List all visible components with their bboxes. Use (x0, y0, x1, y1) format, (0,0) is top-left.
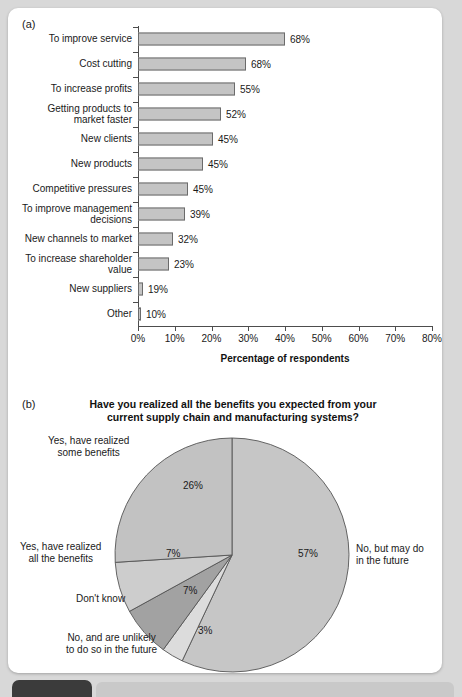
bar-row-label: To improve service (8, 33, 138, 44)
bar-row-label: Competitive pressures (8, 183, 138, 194)
bar-value-label: 45% (208, 158, 228, 169)
bar-fill (138, 107, 221, 120)
bar-track: 68% (138, 26, 442, 51)
pie-category-label-line: Yes, have realized (20, 541, 101, 553)
bar-chart-y-tick (133, 177, 138, 178)
bar-chart-rows: To improve service68%Cost cutting68%To i… (8, 26, 442, 326)
bar-chart-y-tick (133, 152, 138, 153)
bar-chart-x-tick-label: 0% (131, 333, 145, 344)
pie-category-label-line: in the future (356, 555, 424, 567)
pie-category-label-line: Don't know (76, 593, 125, 605)
bar-value-label: 32% (178, 233, 198, 244)
bar-chart-x-tick-label: 60% (348, 333, 368, 344)
pie-category-label: No, and are unlikelyto do so in the futu… (66, 632, 157, 656)
bar-track: 68% (138, 51, 442, 76)
bar-chart-x-tick-label: 30% (238, 333, 258, 344)
bar-chart-x-ticks: 0%10%20%30%40%50%60%70%80% (8, 326, 442, 352)
bar-chart-x-tick (395, 326, 396, 331)
pie-category-label-line: to do so in the future (66, 644, 157, 656)
bar-row-label: New channels to market (8, 233, 138, 244)
bar-chart-y-tick (133, 127, 138, 128)
bar-value-label: 55% (240, 83, 260, 94)
bar-chart-x-tick-label: 40% (275, 333, 295, 344)
pie-category-label-line: No, and are unlikely (66, 632, 157, 644)
bar-chart-x-tick (432, 326, 433, 331)
bar-row-label-line: decisions (8, 214, 132, 225)
bar-chart-x-tick-label: 70% (385, 333, 405, 344)
bar-row-label: New suppliers (8, 283, 138, 294)
bar-row-label-line: New suppliers (8, 283, 132, 294)
bar-track: 55% (138, 76, 442, 101)
bar-value-label: 68% (290, 33, 310, 44)
bar-track: 32% (138, 226, 442, 251)
bar-chart-y-tick (133, 277, 138, 278)
bar-fill (138, 282, 143, 295)
bar-chart-y-tick (133, 227, 138, 228)
bar-value-label: 68% (251, 58, 271, 69)
bar-chart-row: To increase shareholdervalue23% (8, 251, 442, 276)
pie-category-label: Don't know (76, 593, 125, 605)
pie-category-label-line: Yes, have realized (48, 435, 129, 447)
bar-value-label: 10% (146, 308, 166, 319)
bar-chart-row: To improve managementdecisions39% (8, 201, 442, 226)
pie-slice-value: 26% (183, 480, 203, 491)
bottom-bar-decoration (96, 682, 454, 697)
bar-chart-row: New clients45% (8, 126, 442, 151)
bar-chart-row: To improve service68% (8, 26, 442, 51)
bar-fill (138, 157, 203, 170)
bar-fill (138, 182, 188, 195)
bar-chart-row: New suppliers19% (8, 276, 442, 301)
bar-chart-y-tick (133, 202, 138, 203)
bar-track: 19% (138, 276, 442, 301)
bar-chart-x-tick (248, 326, 249, 331)
bar-row-label-line: To improve service (8, 33, 132, 44)
bar-value-label: 19% (148, 283, 168, 294)
bar-chart-row: Other10% (8, 301, 442, 326)
pie-chart-graphic: 57%3%7%7%26%No, but may doin the futureN… (8, 380, 442, 673)
bar-fill (138, 132, 213, 145)
bar-row-label-line: Other (8, 308, 132, 319)
bar-chart-x-tick (359, 326, 360, 331)
bar-track: 45% (138, 176, 442, 201)
bar-fill (138, 32, 285, 45)
bar-chart-x-tick-label: 20% (201, 333, 221, 344)
pie-category-label: Yes, have realizedsome benefits (48, 435, 129, 459)
bar-track: 45% (138, 151, 442, 176)
bar-chart-y-tick (133, 302, 138, 303)
bar-chart-row: New channels to market32% (8, 226, 442, 251)
bar-chart-x-tick (212, 326, 213, 331)
bar-chart-y-tick (133, 252, 138, 253)
bar-fill (138, 82, 235, 95)
bar-row-label: To increase shareholdervalue (8, 253, 138, 275)
bar-row-label: New products (8, 158, 138, 169)
bar-chart-axis-title: Percentage of respondents (138, 353, 432, 364)
bar-track: 52% (138, 101, 442, 126)
bar-value-label: 39% (190, 208, 210, 219)
bar-row-label-line: Cost cutting (8, 58, 132, 69)
bar-row-label-line: Getting products to (8, 103, 132, 114)
bar-chart-y-tick (133, 77, 138, 78)
bar-row-label: Getting products tomarket faster (8, 103, 138, 125)
bar-fill (138, 232, 173, 245)
bar-fill (138, 257, 169, 270)
bar-row-label-line: New products (8, 158, 132, 169)
bar-row-label: To increase profits (8, 83, 138, 94)
bar-row-label: To improve managementdecisions (8, 203, 138, 225)
bar-value-label: 23% (174, 258, 194, 269)
pie-slice-value: 7% (166, 548, 180, 559)
pie-category-label: No, but may doin the future (356, 543, 424, 567)
pie-category-label: Yes, have realizedall the benefits (20, 541, 101, 565)
pie-slice-value: 7% (183, 585, 197, 596)
bar-track: 39% (138, 201, 442, 226)
bar-value-label: 52% (226, 108, 246, 119)
bar-track: 23% (138, 251, 442, 276)
bar-track: 10% (138, 301, 442, 326)
bar-row-label-line: New channels to market (8, 233, 132, 244)
pie-slice-value: 57% (298, 548, 318, 559)
bar-row-label-line: market faster (8, 114, 132, 125)
panel-b-pie-chart: (b) Have you realized all the benefits y… (8, 380, 442, 673)
bar-chart-x-tick-label: 80% (422, 333, 442, 344)
bar-chart-x-tick (175, 326, 176, 331)
figure-card: (a) To improve service68%Cost cutting68%… (8, 8, 442, 673)
bar-fill (138, 207, 185, 220)
